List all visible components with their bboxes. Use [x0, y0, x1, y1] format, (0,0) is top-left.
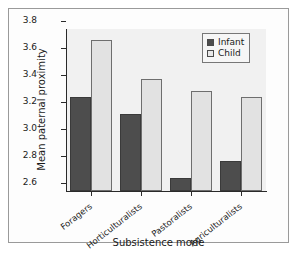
- legend-item-infant: Infant: [207, 37, 244, 48]
- y-tick-mark: [61, 183, 66, 184]
- y-tick-mark: [61, 156, 66, 157]
- x-tick-mark: [141, 192, 142, 196]
- bar-child-agriculturalists: [241, 97, 262, 192]
- bar-infant-pastoralists: [170, 178, 191, 192]
- bar-child-foragers: [91, 40, 112, 191]
- bar-infant-foragers: [70, 97, 91, 192]
- x-tick-mark: [91, 192, 92, 196]
- legend-label-infant: Infant: [218, 38, 244, 47]
- figure: 2.62.83.03.23.43.63.8 ForagersHorticultu…: [0, 0, 299, 253]
- legend: Infant Child: [202, 33, 250, 63]
- bar-infant-horticulturalists: [120, 114, 141, 191]
- y-axis-line: [66, 29, 67, 192]
- bar-infant-agriculturalists: [220, 161, 241, 191]
- y-tick-label: 3.8: [23, 16, 37, 25]
- legend-label-child: Child: [218, 49, 241, 58]
- y-tick-mark: [61, 129, 66, 130]
- legend-swatch-infant-icon: [207, 39, 214, 46]
- y-tick-mark: [61, 75, 66, 76]
- y-tick-mark: [61, 102, 66, 103]
- legend-item-child: Child: [207, 48, 244, 59]
- y-axis-title: Mean paternal proximity: [36, 30, 47, 190]
- bar-child-pastoralists: [191, 91, 212, 191]
- y-tick-mark: [61, 48, 66, 49]
- x-tick-mark: [241, 192, 242, 196]
- y-tick-mark: [61, 21, 66, 22]
- figure-frame: 2.62.83.03.23.43.63.8 ForagersHorticultu…: [8, 8, 289, 243]
- x-tick-mark: [191, 192, 192, 196]
- legend-swatch-child-icon: [207, 50, 214, 57]
- x-axis-line: [66, 191, 267, 192]
- bar-child-horticulturalists: [141, 79, 162, 191]
- x-axis-title: Subsistence mode: [9, 237, 299, 248]
